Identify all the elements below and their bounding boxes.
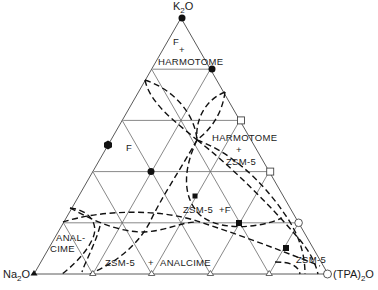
region-label-zsm5-f: ZSM-5 +F [183,204,231,215]
vertex-label-k2o: K2O [173,0,194,15]
region-label-zsm5-mid: ZSM-5 [226,156,256,167]
region-label-analcime-bottom: ANALCIME [160,257,211,268]
marker-filled-square [283,245,289,251]
region-label-zsm5-right: ZSM-5 [296,254,326,265]
region-label-cime: CIME [50,243,75,254]
marker-filled-hexagon [104,141,112,150]
marker-filled-circle [148,168,155,175]
ternary-phase-diagram: K2O Na2O (TPA)2O F + HARMOTOME F HARMOTO… [0,0,378,290]
region-label-harmotome-top: HARMOTOME [158,56,223,67]
vertex-label-tpa2o: (TPA)2O [333,268,374,283]
marker-open-square [267,168,274,175]
vertex-label-na2o: Na2O [3,268,31,283]
marker-filled-triangle [31,270,38,276]
marker-open-triangle [148,271,154,276]
phase-boundaries [62,80,320,274]
region-label-plus-bottom: + [148,257,154,268]
marker-filled-square [193,194,198,199]
marker-open-triangle [207,271,213,276]
grid-lines [63,69,299,274]
region-label-anal: ANAL- [56,232,85,243]
marker-open-square [238,117,245,124]
marker-filled-square [236,220,242,226]
marker-open-triangle [266,271,272,276]
marker-filled-circle [179,15,186,22]
region-label-plus-top: + [179,44,185,55]
marker-open-circle [295,219,303,227]
marker-open-circle [324,270,332,278]
region-label-plus-mid: + [236,144,242,155]
region-label-f-left: F [126,142,132,153]
region-label-zsm5-bottom: ZSM-5 [105,257,135,268]
region-label-harmotome-mid: HARMOTOME [212,132,277,143]
